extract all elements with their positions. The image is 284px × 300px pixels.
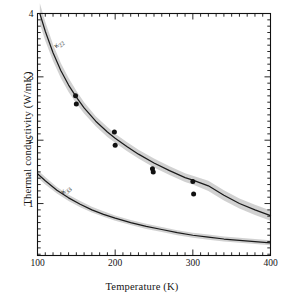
x-axis-title: Temperature (K): [0, 281, 284, 292]
data-point: [74, 102, 79, 107]
y-tick-label: 4: [12, 9, 34, 19]
data-point: [112, 129, 117, 134]
axis-frame-and-ticks: [38, 14, 271, 256]
data-point: [190, 179, 195, 184]
x-tick-label: 300: [186, 258, 200, 268]
fit-curves: [38, 14, 271, 243]
y-tick-label: 2: [12, 135, 34, 145]
band-kappa_22: [40, 3, 271, 220]
plot-canvas: [0, 0, 284, 300]
data-point: [191, 192, 196, 197]
curve-kappa_22: [40, 14, 271, 216]
x-tick-label: 200: [108, 258, 122, 268]
plot-frame: [38, 14, 271, 256]
confidence-bands: [38, 3, 271, 245]
data-point: [151, 169, 156, 174]
thermal-conductivity-chart: Temperature (K) Thermal conductivity (W/…: [0, 0, 284, 300]
data-point: [113, 143, 118, 148]
y-tick-label: 1: [12, 199, 34, 209]
x-tick-label: 100: [30, 258, 44, 268]
data-point: [73, 93, 78, 98]
data-points: [73, 93, 196, 196]
band-kappa_33: [38, 170, 271, 245]
y-tick-label: 3: [12, 72, 34, 82]
x-tick-label: 400: [263, 258, 277, 268]
curve-kappa_33: [38, 174, 271, 243]
